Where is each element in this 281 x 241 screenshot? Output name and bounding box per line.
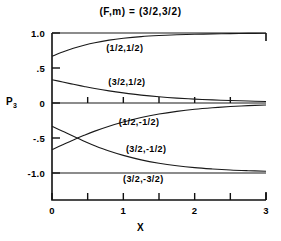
y-tick-label: -1.0 <box>27 168 45 179</box>
y-tick-label: 1.0 <box>31 28 45 39</box>
figure-panel: (F,m) = (3/2,3/2) P3 X 1.0.50-.5-1.00123… <box>0 0 281 241</box>
x-tick-label: 0 <box>49 205 55 216</box>
curve-label--1-2-1-2-: (1/2,-1/2) <box>119 117 160 127</box>
curve-label--3-2-3-2-: (3/2,-3/2) <box>123 174 164 184</box>
curve-label--3-2-1-2-: (3/2,1/2) <box>108 77 145 87</box>
curve--1-2-1-2- <box>52 105 266 150</box>
y-tick-label: 0 <box>39 98 45 109</box>
x-tick-label: 1 <box>121 205 127 216</box>
curve-label--3-2-1-2-: (3/2,-1/2) <box>126 144 167 154</box>
y-tick-label: .5 <box>36 63 45 74</box>
curve--1-2-1-2- <box>52 33 266 56</box>
y-tick-label: -.5 <box>33 133 45 144</box>
x-tick-label: 2 <box>192 205 198 216</box>
curve-label--1-2-1-2-: (1/2,1/2) <box>106 43 143 53</box>
x-tick-label: 3 <box>263 205 269 216</box>
plot-svg: 1.0.50-.5-1.00123 (1/2,1/2)(3/2,1/2)(1/2… <box>0 0 281 241</box>
